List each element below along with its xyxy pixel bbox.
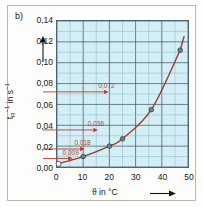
x-axis-title: ϑ in °C xyxy=(92,187,118,197)
x-axis-tick-label: 10 xyxy=(71,172,95,182)
y-axis-tick-label: 0,14 xyxy=(23,15,53,25)
y-axis-tick-label: 0,02 xyxy=(23,142,53,152)
y-axis-tick-label: 0,04 xyxy=(23,121,53,131)
x-axis-tick-label: 50 xyxy=(177,172,201,182)
x-axis-tick-label: 40 xyxy=(150,172,174,182)
y-axis-tick-label: 0,08 xyxy=(23,78,53,88)
rgt-value-0009: 0,009 xyxy=(62,148,78,155)
figure-container: b) 0,000,020,040,060,080,100,120,14 0102… xyxy=(0,0,203,207)
x-axis-tick-label: 20 xyxy=(97,172,121,182)
y-axis-title: tR−1 in s−1 xyxy=(4,65,17,137)
y-axis-arrow-icon xyxy=(38,36,48,62)
y-axis-ticks: 0,000,020,040,060,080,100,120,14 xyxy=(20,20,53,168)
rgt-value-0018: 0,018 xyxy=(74,139,90,146)
rgt-value-0072: 0,072 xyxy=(98,82,114,89)
x-axis-tick-label: 30 xyxy=(124,172,148,182)
x-axis-tick-label: 0 xyxy=(44,172,68,182)
y-axis-tick-label: 0,06 xyxy=(23,100,53,110)
rgt-value-0036: 0,036 xyxy=(88,120,104,127)
x-axis-ticks: 01020304050 xyxy=(56,172,189,186)
x-axis-arrow-icon xyxy=(150,189,176,198)
